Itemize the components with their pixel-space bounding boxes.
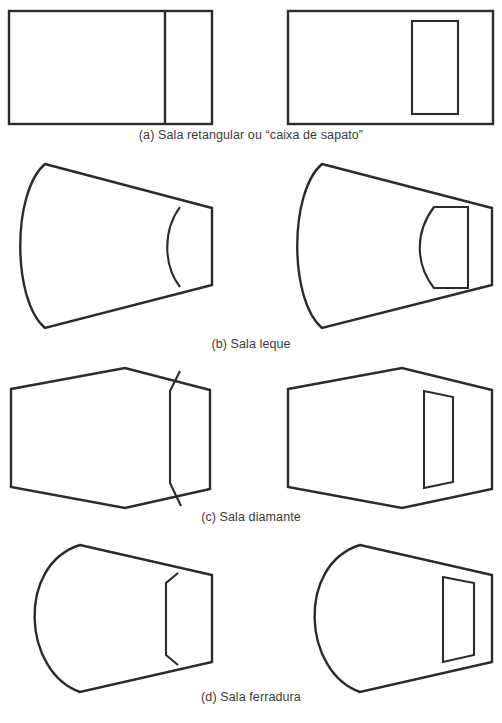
fan-left-plan xyxy=(20,164,212,328)
shoebox-right-plan xyxy=(288,11,493,124)
horseshoe-left-stage-wall xyxy=(166,573,178,665)
horseshoe-right-plan xyxy=(315,545,492,692)
horseshoe-left-outline xyxy=(35,545,212,692)
horseshoe-right-stage-rect xyxy=(443,577,474,662)
diamond-left-plan xyxy=(11,368,210,508)
shoebox-left-outline xyxy=(9,11,212,124)
fan-right-plan xyxy=(297,164,492,328)
shoebox-right-stage-rect xyxy=(412,21,458,114)
diamond-right-stage-rect xyxy=(424,391,453,488)
caption-horseshoe: (d) Sala ferradura xyxy=(0,690,502,704)
diamond-left-outline xyxy=(11,368,210,508)
row-c-diamond xyxy=(11,368,492,508)
fan-right-outline xyxy=(297,164,492,328)
shoebox-left-plan xyxy=(9,11,212,124)
room-shapes-svg xyxy=(0,0,502,723)
row-b-fan xyxy=(20,164,492,328)
fan-left-stage-curve xyxy=(167,207,180,287)
diamond-right-outline xyxy=(288,368,492,508)
fan-left-outline xyxy=(20,164,212,328)
caption-diamond: (c) Sala diamante xyxy=(0,510,502,524)
diamond-left-stage-wall xyxy=(170,371,181,506)
caption-shoebox: (a) Sala retangular ou “caixa de sapato” xyxy=(0,128,502,142)
caption-fan: (b) Sala leque xyxy=(0,337,502,351)
fan-right-stage-pocket xyxy=(420,207,468,288)
horseshoe-right-outline xyxy=(315,545,492,692)
diamond-right-plan xyxy=(288,368,492,508)
horseshoe-left-plan xyxy=(35,545,212,692)
room-shapes-figure: (a) Sala retangular ou “caixa de sapato”… xyxy=(0,0,502,723)
shoebox-right-outline xyxy=(288,11,493,124)
row-d-horseshoe xyxy=(35,545,492,692)
row-a-shoebox xyxy=(9,11,493,124)
